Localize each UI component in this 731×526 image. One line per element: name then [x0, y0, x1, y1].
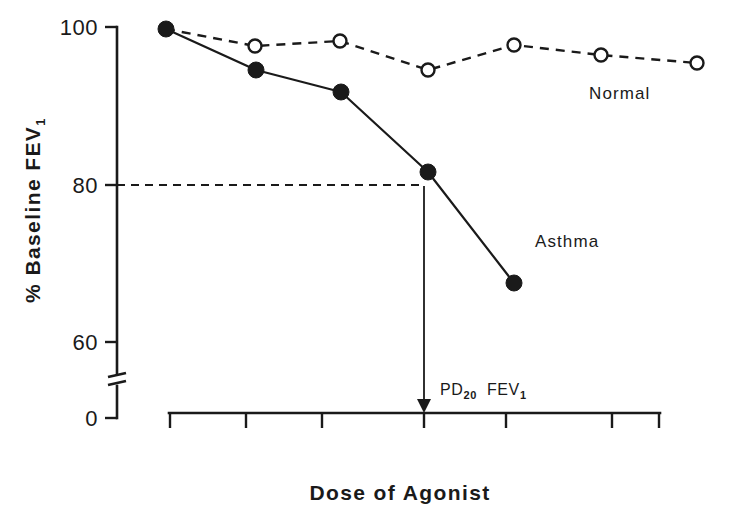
series-label-normal: Normal: [589, 84, 650, 103]
series-normal-point-3: [334, 35, 347, 48]
y-axis-title-main: % Baseline FEV: [21, 126, 44, 303]
series-asthma-point-1: [158, 21, 174, 37]
series-normal-point-6: [595, 49, 608, 62]
y-axis-group: [105, 27, 126, 418]
pd20-label-main: PD: [440, 381, 463, 398]
series-asthma-line: [166, 29, 514, 283]
series-asthma-point-5: [506, 275, 522, 291]
series-normal-point-7: [691, 57, 704, 70]
series-asthma: [158, 21, 522, 291]
series-normal-point-5: [508, 39, 521, 52]
series-normal: [166, 29, 704, 77]
axis-break-mark-lower: [108, 381, 126, 385]
x-axis-group: [169, 413, 660, 428]
y-axis-title: % Baseline FEV1: [21, 117, 48, 303]
series-normal-point-4: [422, 64, 435, 77]
series-asthma-point-2: [248, 62, 264, 78]
series-asthma-point-4: [420, 164, 436, 180]
y-tick-label-0: 0: [85, 406, 98, 431]
chart-svg: 100 80 60 0 % Baseline FEV1 Dose of Agon…: [0, 0, 731, 526]
pd20-label-sub: 20: [463, 389, 476, 401]
x-axis-title: Dose of Agonist: [309, 481, 490, 504]
fev-label-main: FEV: [487, 381, 520, 398]
pd20-annotation-label: PD20 FEV1: [440, 381, 527, 401]
pd20-arrow-head: [417, 399, 431, 413]
fev-label-sub: 1: [520, 389, 527, 401]
series-asthma-point-3: [333, 84, 349, 100]
y-axis-title-group: % Baseline FEV1: [21, 117, 48, 303]
chart-figure: 100 80 60 0 % Baseline FEV1 Dose of Agon…: [0, 0, 731, 526]
y-tick-label-60: 60: [73, 330, 98, 355]
pd20-arrow-group: [417, 186, 431, 413]
y-axis-title-sub: 1: [33, 117, 48, 126]
y-tick-label-80: 80: [73, 173, 98, 198]
series-label-asthma: Asthma: [535, 232, 599, 251]
y-tick-label-100: 100: [60, 15, 98, 40]
series-normal-point-2: [249, 40, 262, 53]
